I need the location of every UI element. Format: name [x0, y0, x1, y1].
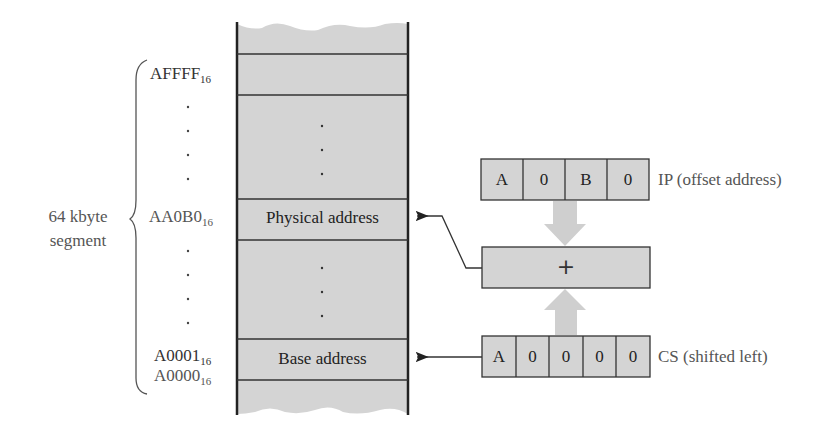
base-address-cell: Base address — [237, 349, 408, 369]
cs-digit: 0 — [616, 347, 650, 367]
segment-label: 64 kbyte segment — [36, 205, 120, 253]
address-base: A000016 — [154, 366, 211, 387]
ip-digit: 0 — [607, 170, 649, 190]
ip-digit: B — [565, 170, 607, 190]
cs-digit: 0 — [583, 347, 616, 367]
address-physical: AA0B016 — [149, 207, 213, 228]
cs-label: CS (shifted left) — [658, 347, 768, 367]
diagram-graphics — [0, 0, 838, 434]
physical-address-cell: Physical address — [237, 208, 408, 228]
cs-digit: 0 — [516, 347, 549, 367]
address-base-plus-one: A000116 — [154, 346, 211, 367]
up-arrow — [544, 289, 586, 335]
plus-icon: + — [482, 254, 650, 279]
cs-digit: 0 — [549, 347, 583, 367]
address-top: AFFFF16 — [150, 64, 211, 85]
segment-brace — [130, 60, 147, 394]
down-arrow — [544, 201, 586, 246]
segment-label-line1: 64 kbyte — [36, 205, 120, 229]
ip-label: IP (offset address) — [658, 170, 782, 190]
ip-digit: A — [481, 170, 523, 190]
physical-address-arrow — [417, 216, 482, 268]
segment-label-line2: segment — [36, 229, 120, 253]
cs-digit: A — [482, 347, 516, 367]
ip-digit: 0 — [523, 170, 565, 190]
